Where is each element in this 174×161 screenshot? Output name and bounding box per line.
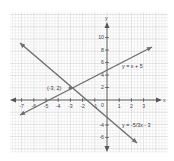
y-tick-label: -4 bbox=[99, 122, 104, 128]
x-tick-label: 2 bbox=[130, 103, 133, 109]
y-tick-label: 8 bbox=[101, 47, 104, 53]
y-tick-label: 2 bbox=[101, 84, 104, 90]
x-tick-label: -3 bbox=[68, 103, 73, 109]
intersection-label: (-3, 2) bbox=[47, 85, 62, 91]
x-tick-label: -5 bbox=[44, 103, 49, 109]
y-tick-label: -6 bbox=[99, 134, 104, 140]
intersection-point bbox=[69, 86, 73, 90]
x-tick-label: -2 bbox=[80, 103, 85, 109]
x-tick-label: 1 bbox=[118, 103, 121, 109]
origin-label: 0 bbox=[101, 102, 104, 108]
x-tick-label: -7 bbox=[19, 103, 24, 109]
y-tick-label: 6 bbox=[101, 59, 104, 65]
line1-label: y = x + 5 bbox=[122, 63, 143, 69]
x-axis-arrow-left-icon bbox=[10, 98, 16, 103]
x-axis-label: x bbox=[163, 97, 166, 103]
x-tick-label: -4 bbox=[56, 103, 61, 109]
plot-grid bbox=[10, 12, 168, 152]
y-axis-label: y bbox=[105, 15, 108, 21]
axes bbox=[10, 22, 162, 152]
x-tick-label: 3 bbox=[142, 103, 145, 109]
y-tick-label: 10 bbox=[98, 34, 104, 40]
y-axis-arrow-up-icon bbox=[105, 22, 110, 28]
line-chart: -7-6-5-4-3-2-1123108642-4-6 x y 0 y = x … bbox=[0, 0, 174, 161]
line2-label: y = -5/3x - 3 bbox=[122, 122, 151, 128]
